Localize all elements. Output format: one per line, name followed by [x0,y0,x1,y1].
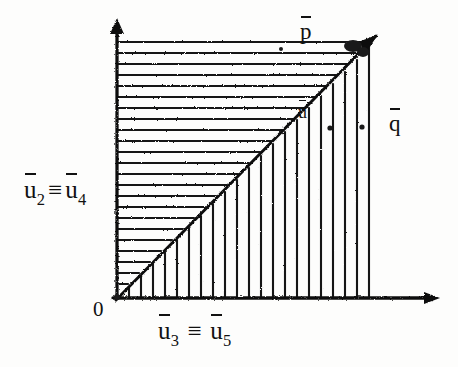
hand-drawn-figure: u2≡u4 u3≡u5 0 p q u [0,0,458,367]
overbar-icon [299,100,307,101]
region-label-q-base: q [389,112,401,135]
x-axis-label-u3-letter: u [158,317,171,344]
y-axis-label-u2-base: u [24,177,37,202]
overbar-icon [25,173,36,175]
diagonal-label-u-base: u [298,103,307,121]
region-label-p: p [300,20,312,43]
diagonal-label-u-letter: u [298,102,307,122]
x-axis-label-equiv: ≡ [188,318,202,343]
diagonal-label-u: u [298,103,307,121]
y-axis-label-u4-base: u [65,177,78,202]
x-axis [113,292,440,304]
y-axis-label: u2≡u4 [24,177,86,208]
y-axis-label-u4-letter: u [65,176,78,203]
y-axis [110,18,124,298]
origin-label: 0 [93,299,104,320]
region-label-p-base: p [300,20,312,43]
y-axis-label-equiv: ≡ [48,177,62,202]
region-label-q: q [389,112,401,135]
overbar-icon [390,108,400,110]
y-axis-label-u4-sub: 4 [78,190,86,209]
x-axis-label: u3≡u5 [158,318,231,349]
x-axis-label-u3-sub: 3 [171,331,179,350]
x-axis-label-u5-base: u [210,318,223,343]
region-label-p-letter: p [300,19,312,44]
overbar-icon [66,173,77,175]
region-label-q-letter: q [389,111,401,136]
ink-artifacts [114,40,369,300]
y-axis-label-u2-letter: u [24,176,37,203]
x-axis-label-u5-sub: 5 [223,331,231,350]
y-axis-label-u2-sub: 2 [37,190,45,209]
vertical-hatch-region [129,46,369,298]
overbar-icon [301,16,311,18]
overbar-icon [211,314,222,316]
x-axis-label-u3-base: u [158,318,171,343]
x-axis-label-u5-letter: u [210,317,223,344]
overbar-icon [159,314,170,316]
